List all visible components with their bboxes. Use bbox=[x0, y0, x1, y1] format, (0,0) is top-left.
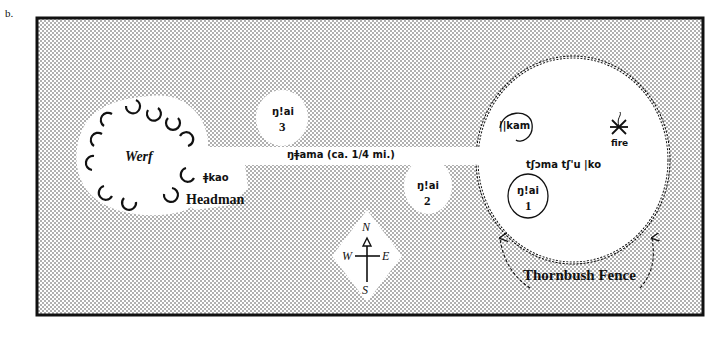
compass-east: E bbox=[382, 250, 389, 262]
compass-south: S bbox=[362, 284, 368, 296]
hut-nai-2-name: ŋ!ai bbox=[417, 181, 439, 191]
hut-nai-3-number: 3 bbox=[279, 120, 286, 133]
compass-west: W bbox=[342, 250, 352, 262]
settlement-map-diagram: b. Werf ǂkao Headman ŋǂama (ca. 1/4 mi.)… bbox=[0, 0, 726, 337]
hut-nai-3-name: ŋ!ai bbox=[272, 107, 294, 117]
dance-circle-label: tʃɔma tʃ'u |ko bbox=[526, 160, 601, 170]
headman-hut-label: ǂkao bbox=[203, 173, 229, 183]
fire-label: fire bbox=[611, 139, 628, 148]
hut-nai-2-number: 2 bbox=[424, 194, 431, 207]
kam-label: ||kam bbox=[499, 121, 530, 131]
hut-nai-1-number: 1 bbox=[525, 199, 532, 212]
path-label: ŋǂama (ca. 1/4 mi.) bbox=[287, 150, 395, 160]
werf-label: Werf bbox=[125, 150, 153, 164]
hut-nai-1-name: ŋ!ai bbox=[517, 186, 539, 196]
compass-north: N bbox=[362, 221, 370, 233]
fence-label: Thornbush Fence bbox=[523, 268, 636, 283]
headman-label: Headman bbox=[186, 193, 244, 207]
panel-label: b. bbox=[5, 8, 13, 19]
